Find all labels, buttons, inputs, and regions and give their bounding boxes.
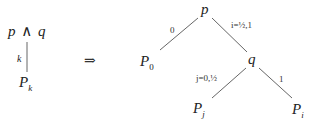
edge-q-right-label: 1	[279, 74, 284, 84]
edge-q-left	[212, 68, 246, 98]
tree-leaf-pj: Pj	[192, 100, 205, 119]
edge-root-right-label: i=½,1	[231, 20, 252, 30]
tree-internal-q: q	[248, 51, 256, 67]
edge-q-right	[259, 68, 292, 98]
implies-arrow-icon: ⇒	[84, 53, 96, 68]
left-edge-label: k	[17, 53, 22, 64]
tree-leaf-pi: Pi	[291, 101, 304, 120]
left-bottom-label: Pk	[18, 74, 33, 93]
tree-root-label: p	[200, 1, 209, 17]
edge-q-left-label: j=0,½	[195, 73, 217, 83]
edge-root-left-label: 0	[170, 25, 175, 35]
tree-diagram: p 0 P0 i=½,1 q j=0,½ Pj 1 Pi	[139, 1, 304, 120]
tree-leaf-p0: P0	[139, 53, 154, 72]
edge-root-left	[160, 18, 198, 50]
diagram-canvas: p ∧ q k Pk ⇒ p 0 P0 i=½,1 q j=0,½ Pj	[0, 0, 317, 122]
left-top-label: p ∧ q	[7, 23, 46, 39]
left-diagram: p ∧ q k Pk	[7, 23, 46, 93]
